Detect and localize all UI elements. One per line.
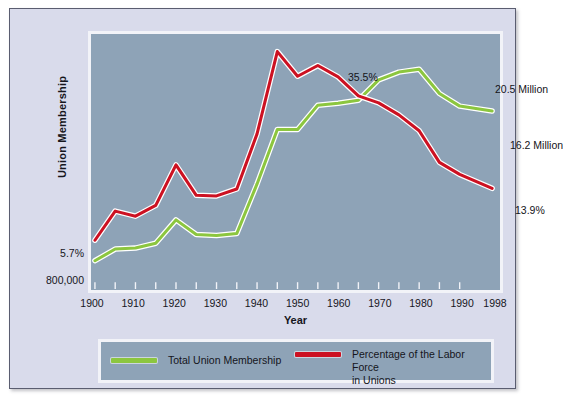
x-tick-label-1920: 1920 bbox=[155, 297, 193, 309]
legend-item-percentage-labor-force: Percentage of the Labor Forcein Unions bbox=[295, 348, 491, 387]
series-halo bbox=[95, 52, 492, 241]
x-tick-label-1910: 1910 bbox=[114, 297, 152, 309]
plot-area: 35.5% 20.5 Million 16.2 Million 13.9% bbox=[91, 34, 500, 290]
legend-item-total-union-membership: Total Union Membership bbox=[111, 354, 281, 367]
annotation-end-percent: 13.9% bbox=[515, 204, 545, 216]
x-tick-label-1998: 1998 bbox=[476, 297, 514, 309]
y-label-membership-start: 800,000 bbox=[16, 274, 84, 286]
series-line-membership bbox=[95, 69, 492, 261]
x-tick-label-1940: 1940 bbox=[237, 297, 275, 309]
legend-swatch-red bbox=[295, 352, 341, 357]
series-group bbox=[95, 52, 492, 261]
annotation-peak-membership: 20.5 Million bbox=[495, 83, 548, 95]
chart-legend: Total Union Membership Percentage of the… bbox=[98, 339, 494, 383]
figure-card: Union Membership 5.7% 800,000 35.5% 20.5… bbox=[9, 8, 516, 389]
legend-swatch-green bbox=[111, 358, 157, 363]
x-tick-label-1970: 1970 bbox=[361, 297, 399, 309]
x-axis-title: Year bbox=[88, 314, 503, 326]
annotation-end-membership: 16.2 Million bbox=[510, 139, 563, 151]
legend-label-percentage-labor-force: Percentage of the Labor Forcein Unions bbox=[352, 348, 491, 387]
x-tick-label-1900: 1900 bbox=[73, 297, 111, 309]
plot-frame: 35.5% 20.5 Million 16.2 Million 13.9% bbox=[88, 31, 503, 293]
series-halo bbox=[95, 69, 492, 261]
annotation-peak-percent: 35.5% bbox=[348, 71, 378, 83]
series-line-percentage bbox=[95, 52, 492, 241]
x-tick-label-1930: 1930 bbox=[196, 297, 234, 309]
x-tick-label-1960: 1960 bbox=[320, 297, 358, 309]
chart-lines bbox=[91, 34, 500, 290]
y-label-percent-start: 5.7% bbox=[28, 247, 84, 259]
legend-label-total-union-membership: Total Union Membership bbox=[168, 354, 281, 367]
x-tick-label-1980: 1980 bbox=[402, 297, 440, 309]
x-tick-marks bbox=[95, 282, 460, 289]
x-tick-label-1950: 1950 bbox=[279, 297, 317, 309]
y-axis-title: Union Membership bbox=[56, 47, 68, 207]
